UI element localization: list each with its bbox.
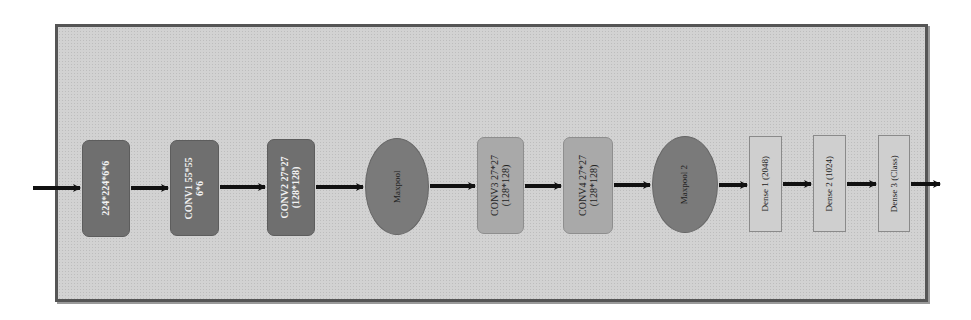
node-dense1-label: Dense 1 (2048) (760, 156, 770, 212)
node-conv2-sublabel: (128*128) (290, 167, 301, 209)
node-dense2: Dense 2 (1024) (813, 135, 846, 232)
node-dense3-label: Dense 3 (Class) (888, 155, 898, 212)
node-conv2-label: CONV2 27*27 (280, 157, 291, 219)
node-maxpool2-label: Maxpool 2 (679, 165, 689, 204)
node-conv1-sublabel: 6*6 (194, 181, 205, 196)
node-conv2: CONV2 27*27(128*128) (267, 139, 315, 236)
node-conv3: CONV3 27*27(128*128) (477, 137, 524, 234)
node-maxpool2: Maxpool 2 (652, 136, 718, 233)
node-input: 224*224*6*6 (82, 140, 130, 237)
node-dense1: Dense 1 (2048) (749, 136, 782, 232)
node-maxpool: Maxpool (365, 138, 429, 235)
node-conv4: CONV4 27*27(128*128) (563, 137, 613, 234)
node-maxpool-label: Maxpool (391, 170, 401, 203)
node-conv4-sublabel: (128*128) (587, 165, 598, 207)
node-conv1: CONV1 55*556*6 (170, 140, 219, 236)
node-conv1-label: CONV1 55*55 (183, 157, 194, 219)
node-conv3-label: CONV3 27*27 (489, 155, 500, 216)
node-conv4-label: CONV4 27*27 (577, 155, 588, 216)
node-input-label: 224*224*6*6 (100, 161, 111, 216)
node-dense2-label: Dense 2 (1024) (824, 156, 834, 212)
node-conv3-sublabel: (128*128) (500, 165, 511, 207)
node-dense3: Dense 3 (Class) (878, 135, 910, 232)
